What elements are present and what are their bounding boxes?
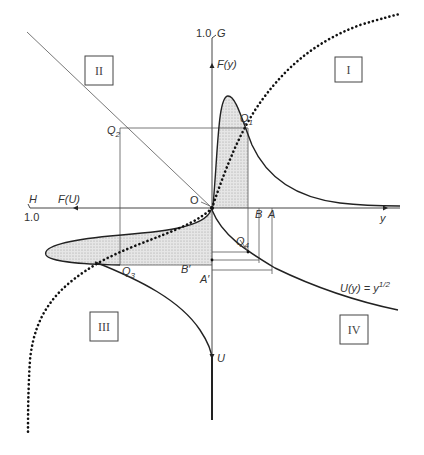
arrow-f-y-icon (210, 63, 215, 68)
transformation-diagram: I II III IV 1.0 G F(y) H 1.0 F(U) y U O … (0, 0, 424, 455)
svg-text:I: I (347, 63, 351, 77)
point-a-label: A (267, 208, 275, 220)
svg-text:IV: IV (348, 323, 361, 337)
arrow-f-u-icon (73, 206, 78, 211)
quadrant-4-box: IV (340, 315, 368, 344)
shaded-area-quadrant-3 (46, 210, 212, 265)
point-q3-label: Q3 (122, 265, 136, 280)
right-axis-label: y (379, 212, 387, 224)
bottom-axis-label: U (217, 352, 225, 364)
f-u-label: F(U) (58, 193, 80, 205)
mapping-curve-quadrant-3 (95, 262, 212, 360)
quadrant-3-box: III (90, 312, 118, 341)
point-b-prime-label: B′ (181, 263, 191, 275)
svg-text:II: II (95, 64, 103, 78)
function-label: U(y) = y1/2 (340, 280, 390, 294)
point-b-label: B (255, 208, 262, 220)
top-axis-label: G (217, 27, 226, 39)
quadrant-1-box: I (335, 57, 362, 82)
point-q4-marker (247, 251, 250, 254)
top-tick (212, 35, 216, 38)
point-q2-label: Q2 (107, 124, 121, 139)
point-b-prime-marker (211, 259, 214, 262)
origin-marker (210, 206, 214, 210)
point-a-prime-label: A′ (199, 273, 210, 285)
origin-label: O (190, 194, 199, 206)
f-y-label: F(y) (217, 58, 237, 70)
left-value-label: 1.0 (24, 211, 39, 223)
diagonal-reference-line (27, 32, 212, 208)
left-axis-label: H (29, 193, 37, 205)
quadrant-2-box: II (85, 56, 113, 85)
top-value-label: 1.0 (196, 27, 211, 39)
origin-leader (201, 202, 210, 206)
svg-text:III: III (98, 320, 110, 334)
